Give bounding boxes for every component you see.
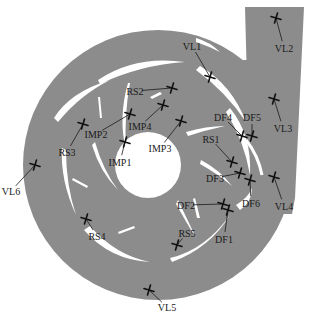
point-label: DF4 xyxy=(214,112,232,123)
point-label: DF3 xyxy=(206,173,224,184)
point-label: VL4 xyxy=(275,201,293,212)
point-label: DF6 xyxy=(242,198,260,209)
point-label: RS4 xyxy=(88,231,105,242)
point-label: VL5 xyxy=(158,302,176,313)
point-label: RS3 xyxy=(58,147,75,158)
point-label: VL1 xyxy=(183,41,201,52)
point-label: IMP1 xyxy=(109,157,132,168)
pump-diagram: VL1VL2VL3VL4VL5VL6RS1RS2RS3RS4RS5IMP1IMP… xyxy=(0,0,314,320)
point-label: RS2 xyxy=(126,86,143,97)
point-label: DF2 xyxy=(177,200,195,211)
point-label: IMP3 xyxy=(149,143,172,154)
point-label: RS1 xyxy=(202,134,219,145)
point-label: DF1 xyxy=(215,234,233,245)
point-label: RS5 xyxy=(178,228,195,239)
point-label: VL3 xyxy=(274,123,292,134)
point-label: VL6 xyxy=(2,186,20,197)
point-label: IMP4 xyxy=(129,121,152,132)
point-label: DF5 xyxy=(243,112,261,123)
point-label: VL2 xyxy=(275,43,293,54)
point-label: IMP2 xyxy=(85,129,108,140)
